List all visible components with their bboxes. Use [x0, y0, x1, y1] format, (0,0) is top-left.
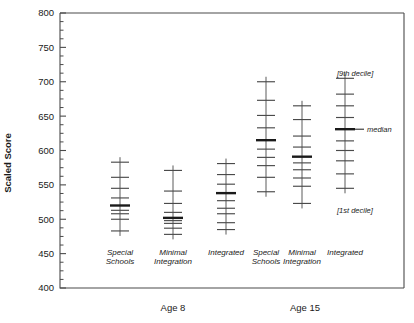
decile-column	[110, 157, 130, 236]
group-labels: Age 8Age 15	[161, 302, 320, 313]
category-label: MinimalIntegration	[154, 248, 192, 266]
category-label: Integrated	[208, 248, 245, 257]
category-label-line: Minimal	[159, 248, 187, 257]
annotations-layer: [9th decile]median[1st decile]	[336, 69, 392, 215]
category-label: SpecialSchools	[252, 248, 280, 266]
y-tick-label: 550	[38, 179, 54, 190]
group-label: Age 8	[161, 302, 186, 313]
annotation-median: median	[367, 125, 392, 134]
category-labels: SpecialSchoolsMinimalIntegrationIntegrat…	[106, 248, 364, 266]
y-tick-label: 650	[38, 111, 54, 122]
decile-plot-svg: 800750700650600550500450400 SpecialSchoo…	[0, 0, 414, 323]
category-label: MinimalIntegration	[283, 248, 321, 266]
series-layer	[110, 73, 355, 239]
decile-column	[256, 77, 276, 197]
category-label-line: Integration	[154, 257, 192, 266]
y-tick-label: 400	[38, 282, 54, 293]
decile-column	[292, 101, 312, 209]
y-tick-label: 700	[38, 76, 54, 87]
y-axis-title: Scaled Score	[2, 133, 13, 193]
category-label-line: Schools	[106, 257, 134, 266]
decile-column	[216, 159, 236, 235]
category-label-line: Special	[107, 248, 133, 257]
annotation-9th-decile: [9th decile]	[336, 69, 374, 78]
y-tick-label: 450	[38, 248, 54, 259]
group-label: Age 15	[290, 302, 320, 313]
category-label: Integrated	[327, 248, 364, 257]
y-axis: 800750700650600550500450400	[38, 7, 66, 293]
decile-column	[335, 73, 355, 193]
y-tick-label: 600	[38, 145, 54, 156]
y-tick-label: 800	[38, 7, 54, 18]
decile-column	[163, 165, 183, 239]
category-label-line: Special	[253, 248, 279, 257]
annotation-1st-decile: [1st decile]	[336, 206, 374, 215]
category-label-line: Minimal	[288, 248, 316, 257]
category-label-line: Integration	[283, 257, 321, 266]
y-tick-label: 750	[38, 42, 54, 53]
category-label: SpecialSchools	[106, 248, 134, 266]
y-tick-label: 500	[38, 214, 54, 225]
category-label-line: Schools	[252, 257, 280, 266]
chart-figure: 800750700650600550500450400 SpecialSchoo…	[0, 0, 414, 323]
